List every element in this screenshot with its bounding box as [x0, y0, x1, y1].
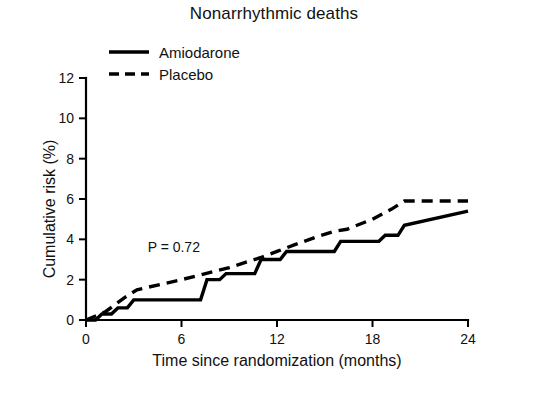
x-axis-tick-labels: 06121824 [82, 331, 476, 347]
x-tick-label: 12 [269, 331, 285, 347]
y-axis-tick-labels: 024681012 [58, 70, 74, 328]
y-tick-label: 8 [66, 151, 74, 167]
series-line-amiodarone [86, 211, 468, 320]
x-axis-title: Time since randomization (months) [85, 352, 469, 370]
y-tick-label: 0 [66, 312, 74, 328]
y-tick-label: 10 [58, 110, 74, 126]
y-tick-label: 4 [66, 231, 74, 247]
y-tick-label: 6 [66, 191, 74, 207]
y-axis-title: Cumulative risk (%) [41, 89, 59, 329]
x-tick-label: 24 [460, 331, 476, 347]
p-value-annotation: P = 0.72 [148, 239, 200, 255]
y-tick-label: 12 [58, 70, 74, 86]
plot-area: 024681012 06121824 [0, 0, 548, 393]
chart-page: Nonarrhythmic deaths Amiodarone Placebo [0, 0, 548, 393]
x-tick-label: 0 [82, 331, 90, 347]
x-tick-label: 18 [365, 331, 381, 347]
y-tick-label: 2 [66, 272, 74, 288]
x-tick-label: 6 [178, 331, 186, 347]
